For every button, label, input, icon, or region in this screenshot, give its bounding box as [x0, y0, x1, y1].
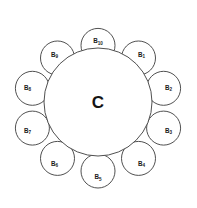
satellite-node-circle-b5[interactable] [81, 154, 115, 188]
label-subscript: 2 [169, 87, 172, 92]
satellite-node-circle-b7[interactable] [15, 111, 49, 145]
center-node-label: C [92, 93, 104, 112]
label-subscript: 10 [98, 41, 104, 46]
label-subscript: 3 [169, 130, 172, 135]
label-subscript: 5 [99, 177, 102, 182]
label-subscript: 8 [29, 87, 32, 92]
cluster-diagram: C B1B2B3B4B5B6B7B8B9B10 [0, 0, 197, 208]
satellite-node-circle-b3[interactable] [147, 111, 181, 145]
label-subscript: 7 [29, 130, 32, 135]
label-subscript: 4 [142, 163, 145, 168]
diagram-canvas: C B1B2B3B4B5B6B7B8B9B10 [0, 0, 197, 208]
label-subscript: 6 [56, 163, 59, 168]
label-subscript: 9 [56, 55, 59, 60]
label-subscript: 1 [142, 55, 145, 60]
